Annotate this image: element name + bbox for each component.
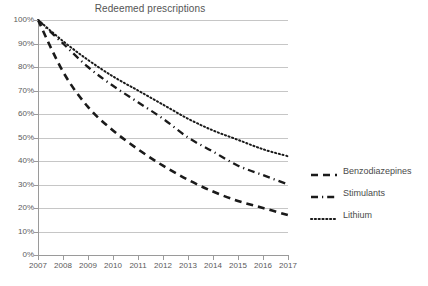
y-axis-tick-mark xyxy=(34,114,38,115)
y-axis-tick-mark xyxy=(34,208,38,209)
legend-swatch-dash-dot-icon xyxy=(310,188,338,198)
x-axis-tick-mark xyxy=(163,256,164,260)
y-axis-tick-mark xyxy=(34,185,38,186)
series-lines xyxy=(38,20,288,255)
y-axis-tick-label: 10% xyxy=(2,228,34,236)
y-axis-tick-label: 90% xyxy=(2,40,34,48)
x-axis-tick-mark xyxy=(238,256,239,260)
x-axis-tick-mark xyxy=(113,256,114,260)
legend-swatch-dashed-icon xyxy=(310,166,338,176)
legend-item[interactable]: Benzodiazepines xyxy=(310,160,428,182)
series-line-stimulants xyxy=(38,20,288,185)
x-axis-tick-label: 2017 xyxy=(268,262,308,270)
y-axis-tick-mark xyxy=(34,161,38,162)
legend-swatch-dotted-icon xyxy=(310,210,338,220)
y-axis-tick-mark xyxy=(34,232,38,233)
legend-item[interactable]: Stimulants xyxy=(310,182,428,204)
legend-label: Benzodiazepines xyxy=(343,166,412,176)
y-axis-tick-mark xyxy=(34,44,38,45)
y-axis-tick-mark xyxy=(34,67,38,68)
y-axis-tick-label: 70% xyxy=(2,87,34,95)
chart-legend: BenzodiazepinesStimulantsLithium xyxy=(310,160,428,226)
y-axis-tick-label: 50% xyxy=(2,134,34,142)
y-axis-tick-label: 80% xyxy=(2,63,34,71)
x-axis-tick-mark xyxy=(63,256,64,260)
y-axis-tick-label: 0% xyxy=(2,251,34,259)
chart-container: Redeemed prescriptions 0%10%20%30%40%50%… xyxy=(0,0,428,286)
y-axis-tick-label: 40% xyxy=(2,157,34,165)
chart-title: Redeemed prescriptions xyxy=(0,3,300,14)
series-line-benzodiazepines xyxy=(38,20,288,215)
x-axis-tick-mark xyxy=(288,256,289,260)
x-axis-tick-mark xyxy=(88,256,89,260)
legend-label: Lithium xyxy=(343,210,372,220)
y-axis-tick-labels: 0%10%20%30%40%50%60%70%80%90%100% xyxy=(0,0,34,286)
y-axis-tick-label: 60% xyxy=(2,110,34,118)
x-axis-tick-mark xyxy=(263,256,264,260)
y-axis-tick-label: 100% xyxy=(2,16,34,24)
y-axis-tick-mark xyxy=(34,91,38,92)
x-axis-tick-mark xyxy=(188,256,189,260)
legend-item[interactable]: Lithium xyxy=(310,204,428,226)
x-axis-tick-mark xyxy=(213,256,214,260)
y-axis-tick-label: 20% xyxy=(2,204,34,212)
x-axis-tick-mark xyxy=(38,256,39,260)
series-line-lithium xyxy=(38,20,288,156)
y-axis-tick-label: 30% xyxy=(2,181,34,189)
y-axis-tick-mark xyxy=(34,20,38,21)
legend-label: Stimulants xyxy=(343,188,385,198)
x-axis-tick-mark xyxy=(138,256,139,260)
y-axis-tick-mark xyxy=(34,138,38,139)
